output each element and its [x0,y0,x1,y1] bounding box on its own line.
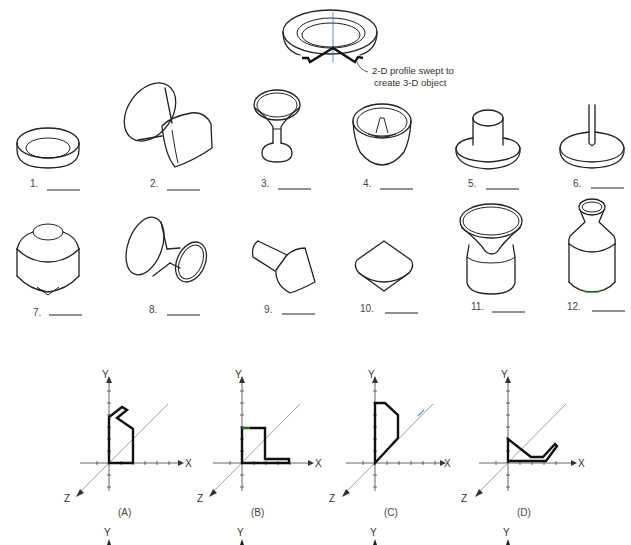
object-6-number: 6. [573,178,581,189]
profile-a-axes: X Y Z (A) [64,369,192,518]
profile-a-shape [109,407,133,463]
object-10-number: 10. [360,303,374,314]
object-5-number: 5. [468,178,476,189]
object-3-goblet [254,90,300,162]
callout-line-2: create 3-D object [374,77,447,88]
profile-d-y-label: Y [501,369,508,380]
object-2-double-cone [114,73,212,167]
object-4-number: 4. [363,178,371,189]
profile-d-z-label: Z [461,493,467,504]
object-5-cylinder-on-disk [456,110,520,169]
profile-c-axes: X Y Z (C) [329,369,451,518]
profile-a-x-label: X [185,458,192,469]
profile-d-label: (D) [517,507,531,518]
object-11-number: 11. [471,301,484,312]
object-3-number: 3. [261,178,269,189]
profile-c-z-label: Z [329,493,335,504]
object-7-cylinder-cone [17,224,79,295]
object-9-number: 9. [264,304,272,315]
callout-line-1: 2-D profile swept to [372,65,454,76]
worksheet-canvas: 2-D profile swept to create 3-D object [0,0,631,545]
object-4-bundt-pan [353,104,411,165]
profile-c-x-label: X [444,458,451,469]
profile-b-shape [242,428,289,463]
profile-b-x-label: X [315,458,322,469]
object-8-number: 8. [149,304,157,315]
swept-dish-figure: 2-D profile swept to create 3-D object [283,10,454,88]
profile-b-axes: X Y Z (B) [197,369,322,518]
next-axis-1-y-label: Y [104,527,111,538]
profile-b-y-label: Y [235,369,242,380]
profile-a-label: (A) [118,507,131,518]
object-6-rod-on-disk [560,105,624,168]
object-12-number: 12. [567,301,581,312]
object-1-ring-dish [17,128,79,168]
profile-c-label: (C) [384,507,398,518]
profile-c-shape [375,403,398,463]
profile-a-z-label: Z [64,493,70,504]
swept-profile-path [302,48,363,62]
profile-d-x-label: X [578,458,585,469]
next-axis-3-y-label: Y [370,527,377,538]
profile-a-y-label: Y [102,369,109,380]
profile-c-y-label: Y [368,369,375,380]
object-11-cylinder-funnel [460,204,522,294]
next-axis-2-y-label: Y [237,527,244,538]
object-1-number: 1. [30,178,38,189]
object-10-spindle [355,241,412,291]
row-2-labels: 7. 8. 9. 10. 11. 12. [33,301,625,318]
callout-leader [357,62,368,72]
next-axis-4-y-label: Y [503,527,510,538]
row-1-labels: 1. 2. 3. 4. 5. 6. [30,178,624,190]
next-row-axes: Y Y Y Y [104,527,510,545]
profile-d-shape [508,439,557,463]
object-8-flared-funnel [119,212,213,287]
object-12-bottle [569,199,616,293]
profile-b-z-label: Z [197,493,203,504]
profile-b-label: (B) [251,507,264,518]
profile-d-axes: X Y Z (D) [461,369,585,518]
object-9-cylinder-cone-head [253,241,315,293]
object-7-number: 7. [33,307,41,318]
object-2-number: 2. [150,178,158,189]
